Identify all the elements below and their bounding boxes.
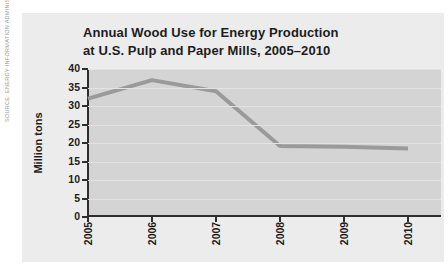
y-tick-40 <box>82 68 88 70</box>
y-tick-30 <box>82 105 88 107</box>
source-attribution: SOURCE: ENERGY INFORMATION ADMINISTRATIO… <box>4 0 10 122</box>
x-tick-label-2005: 2005 <box>82 219 95 249</box>
chart-title: Annual Wood Use for Energy Production at… <box>83 24 339 60</box>
x-tick-label-2009: 2009 <box>338 219 351 249</box>
gridline-y-10 <box>88 180 441 181</box>
chart-title-line-2: at U.S. Pulp and Paper Mills, 2005–2010 <box>83 42 339 60</box>
y-tick-label-35: 35 <box>52 81 80 94</box>
y-tick-5 <box>82 198 88 200</box>
y-tick-label-30: 30 <box>52 99 80 112</box>
y-tick-label-5: 5 <box>52 192 80 205</box>
gridline-y-35 <box>88 88 441 89</box>
x-tick-label-2006: 2006 <box>146 219 159 249</box>
x-tick-label-2010: 2010 <box>402 219 415 249</box>
chart-title-line-1: Annual Wood Use for Energy Production <box>83 24 339 42</box>
y-tick-label-40: 40 <box>52 62 80 75</box>
y-tick-label-15: 15 <box>52 155 80 168</box>
y-axis-title: Million tons <box>31 98 45 188</box>
y-tick-label-20: 20 <box>52 136 80 149</box>
wood-use-line <box>88 80 408 148</box>
gridline-y-5 <box>88 199 441 200</box>
chart-image: SOURCE: ENERGY INFORMATION ADMINISTRATIO… <box>0 0 448 274</box>
y-tick-label-25: 25 <box>52 118 80 131</box>
y-tick-10 <box>82 179 88 181</box>
gridline-y-15 <box>88 162 441 163</box>
y-tick-25 <box>82 124 88 126</box>
gridline-y-30 <box>88 106 441 107</box>
x-tick-label-2007: 2007 <box>210 219 223 249</box>
chart-figure: Annual Wood Use for Energy Production at… <box>22 13 444 262</box>
plot-area: Million tons 051015202530354020052006200… <box>88 69 441 217</box>
y-tick-15 <box>82 161 88 163</box>
y-tick-20 <box>82 142 88 144</box>
x-tick-label-2008: 2008 <box>274 219 287 249</box>
y-tick-label-0: 0 <box>52 210 80 223</box>
gridline-y-25 <box>88 125 441 126</box>
y-tick-label-10: 10 <box>52 173 80 186</box>
y-tick-35 <box>82 87 88 89</box>
gridline-y-20 <box>88 143 441 144</box>
gridline-y-40 <box>88 69 441 70</box>
